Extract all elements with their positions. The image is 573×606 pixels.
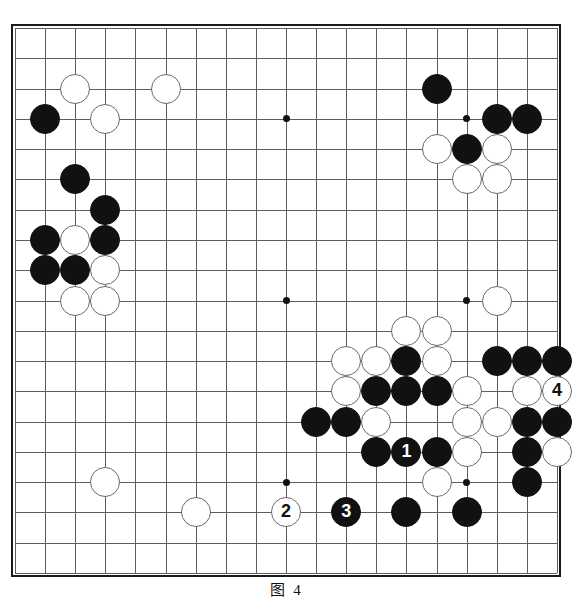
white-stone[interactable] xyxy=(452,376,482,406)
white-stone[interactable] xyxy=(542,437,572,467)
move-number-label: 1 xyxy=(401,442,411,460)
move-number-label: 3 xyxy=(341,502,351,520)
star-point xyxy=(283,115,290,122)
figure-caption: 图 4 xyxy=(0,578,573,599)
black-stone[interactable] xyxy=(301,407,331,437)
white-stone[interactable] xyxy=(452,164,482,194)
star-point xyxy=(283,297,290,304)
move-stone-4[interactable]: 4 xyxy=(542,376,572,406)
black-stone[interactable] xyxy=(482,104,512,134)
black-stone[interactable] xyxy=(482,346,512,376)
white-stone[interactable] xyxy=(482,286,512,316)
black-stone[interactable] xyxy=(331,407,361,437)
black-stone[interactable] xyxy=(452,497,482,527)
white-stone[interactable] xyxy=(512,376,542,406)
black-stone[interactable] xyxy=(361,437,391,467)
white-stone[interactable] xyxy=(361,407,391,437)
go-board[interactable]: 4123 xyxy=(15,28,557,573)
white-stone[interactable] xyxy=(422,467,452,497)
black-stone[interactable] xyxy=(422,74,452,104)
grid-line-horizontal xyxy=(15,89,557,90)
grid-line-horizontal xyxy=(15,58,557,59)
white-stone[interactable] xyxy=(422,316,452,346)
white-stone[interactable] xyxy=(151,74,181,104)
black-stone[interactable] xyxy=(30,104,60,134)
grid-line-horizontal xyxy=(15,573,557,574)
black-stone[interactable] xyxy=(30,225,60,255)
white-stone[interactable] xyxy=(422,346,452,376)
white-stone[interactable] xyxy=(181,497,211,527)
white-stone[interactable] xyxy=(60,225,90,255)
grid-line-horizontal xyxy=(15,361,557,362)
move-number-label: 2 xyxy=(281,502,291,520)
white-stone[interactable] xyxy=(482,164,512,194)
grid-line-horizontal xyxy=(15,331,557,332)
white-stone[interactable] xyxy=(90,286,120,316)
grid-line-horizontal xyxy=(15,543,557,544)
black-stone[interactable] xyxy=(422,376,452,406)
white-stone[interactable] xyxy=(60,74,90,104)
black-stone[interactable] xyxy=(452,134,482,164)
white-stone[interactable] xyxy=(90,104,120,134)
white-stone[interactable] xyxy=(422,134,452,164)
figure-page: 4123 图 4 xyxy=(0,0,573,606)
black-stone[interactable] xyxy=(542,346,572,376)
black-stone[interactable] xyxy=(512,437,542,467)
star-point xyxy=(463,297,470,304)
white-stone[interactable] xyxy=(452,437,482,467)
black-stone[interactable] xyxy=(512,104,542,134)
move-number-label: 4 xyxy=(552,381,562,399)
star-point xyxy=(283,479,290,486)
white-stone[interactable] xyxy=(482,134,512,164)
black-stone[interactable] xyxy=(422,437,452,467)
grid-line-horizontal xyxy=(15,28,557,29)
black-stone[interactable] xyxy=(512,346,542,376)
white-stone[interactable] xyxy=(60,286,90,316)
black-stone[interactable] xyxy=(542,407,572,437)
black-stone[interactable] xyxy=(90,195,120,225)
white-stone[interactable] xyxy=(452,407,482,437)
star-point xyxy=(463,479,470,486)
star-point xyxy=(463,115,470,122)
grid-line-vertical xyxy=(557,28,558,573)
white-stone[interactable] xyxy=(482,407,512,437)
black-stone[interactable] xyxy=(512,407,542,437)
black-stone[interactable] xyxy=(512,467,542,497)
